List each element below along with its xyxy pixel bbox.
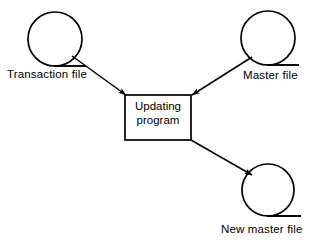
label-master-file: Master file <box>243 69 298 81</box>
node-transaction-file[interactable] <box>28 12 86 66</box>
node-master-file[interactable] <box>241 11 299 65</box>
tape-reel-circle <box>242 164 294 216</box>
process-label-line-2: program <box>126 113 190 127</box>
process-box-label: Updating program <box>126 99 190 127</box>
flowchart-canvas: Transaction file Master file New master … <box>0 0 323 246</box>
arrow-program-to-new-master <box>191 140 252 175</box>
process-label-line-1: Updating <box>126 99 190 113</box>
label-transaction-file: Transaction file <box>7 68 87 80</box>
label-new-master-file: New master file <box>221 223 303 235</box>
tape-reel-circle <box>241 11 295 65</box>
node-new-master-file[interactable] <box>242 164 301 216</box>
